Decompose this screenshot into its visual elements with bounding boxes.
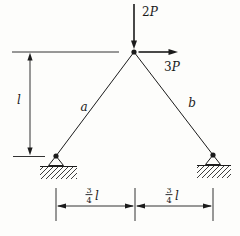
- left-span-fraction-denominator: 4: [86, 196, 91, 205]
- vertical-load-arrowhead-icon: [131, 41, 137, 50]
- right-span-fraction-numerator: 3: [166, 186, 171, 195]
- bar-a-line: [56, 52, 134, 156]
- left-support-pin-node: [53, 153, 58, 158]
- horizontal-load-arrowhead-icon: [169, 49, 179, 55]
- vertical-load-2p: 2P: [131, 4, 159, 49]
- right-span-arrow-right-icon: [203, 204, 212, 209]
- right-span-fraction-denominator: 4: [166, 196, 171, 205]
- horizontal-load-label: 3P: [164, 60, 181, 74]
- left-span-label: 3 4 l: [86, 186, 100, 205]
- height-dimension-label: l: [17, 93, 21, 107]
- vertical-load-label: 2P: [142, 5, 159, 19]
- right-ground-hatching: [197, 166, 231, 178]
- height-dimension: l: [13, 53, 45, 157]
- right-support-pin-node: [210, 152, 215, 157]
- truss-figure-canvas: l a b 2P 3P: [0, 0, 240, 236]
- bar-a-label: a: [80, 100, 87, 114]
- span-dimensions: 3 4 l 3 4 l: [56, 186, 213, 221]
- left-pin-support: [40, 153, 77, 179]
- left-span-fraction-numerator: 3: [86, 186, 91, 195]
- left-span-arrow-left-icon: [57, 204, 66, 209]
- right-span-unit: l: [175, 189, 179, 203]
- right-span-label: 3 4 l: [166, 186, 180, 205]
- right-pin-support: [197, 152, 231, 178]
- apex-joint-node: [131, 49, 136, 54]
- left-span-arrow-right-icon: [125, 204, 134, 209]
- height-dim-arrow-up-icon: [27, 53, 32, 61]
- right-span-arrow-left-icon: [136, 204, 145, 209]
- horizontal-load-3p: 3P: [139, 49, 181, 74]
- two-bar-truss-diagram: l a b 2P 3P: [0, 0, 240, 236]
- left-span-unit: l: [95, 189, 99, 203]
- bar-b-label: b: [188, 96, 196, 110]
- left-ground-hatching: [40, 167, 77, 179]
- height-dim-arrow-down-icon: [27, 148, 32, 156]
